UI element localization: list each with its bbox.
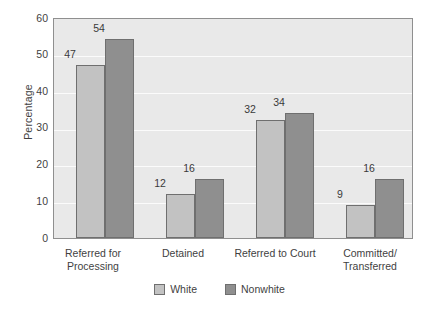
bar-nonwhite-referred-for-processing (105, 39, 134, 238)
y-tick-label-30: 30 (18, 122, 48, 132)
bar-value-nonwhite-detained: 16 (172, 163, 206, 174)
bar-nonwhite-referred-to-court (285, 113, 314, 238)
bar-value-nonwhite-referred-to-court: 34 (262, 97, 296, 108)
bar-white-referred-for-processing (76, 65, 105, 238)
y-tick-label-50: 50 (18, 49, 48, 59)
x-category-label-referred-to-court: Referred to Court (225, 247, 325, 260)
y-tick-label-0: 0 (18, 233, 48, 243)
plot-area (53, 18, 413, 239)
x-category-label-committed-transferred: Committed/ Transferred (327, 247, 413, 272)
legend-item-white: White (154, 283, 197, 295)
legend-label-white: White (170, 283, 197, 295)
y-tick-label-60: 60 (18, 13, 48, 23)
x-category-label-referred-for-processing: Referred for Processing (51, 247, 135, 272)
x-category-label-detained: Detained (141, 247, 225, 260)
legend-item-nonwhite: Nonwhite (225, 283, 285, 295)
bar-value-white-committed-transferred: 9 (323, 189, 357, 200)
bar-value-nonwhite-referred-for-processing: 54 (82, 23, 116, 34)
bar-value-white-referred-for-processing: 47 (53, 49, 87, 60)
legend-label-nonwhite: Nonwhite (241, 283, 285, 295)
bar-nonwhite-detained (195, 179, 224, 238)
bar-nonwhite-committed-transferred (375, 179, 404, 238)
legend-swatch-white-icon (154, 284, 165, 295)
bar-chart-figure: Percentage 60 50 40 30 20 10 0 47 54 12 … (0, 0, 439, 313)
bar-white-committed-transferred (346, 205, 375, 238)
y-tick-label-20: 20 (18, 159, 48, 169)
y-tick-label-10: 10 (18, 196, 48, 206)
bar-white-detained (166, 194, 195, 238)
chart-legend: White Nonwhite (0, 283, 439, 295)
y-tick-label-40: 40 (18, 86, 48, 96)
bar-white-referred-to-court (256, 120, 285, 238)
bar-value-white-detained: 12 (143, 178, 177, 189)
legend-swatch-nonwhite-icon (225, 284, 236, 295)
bar-value-nonwhite-committed-transferred: 16 (352, 163, 386, 174)
